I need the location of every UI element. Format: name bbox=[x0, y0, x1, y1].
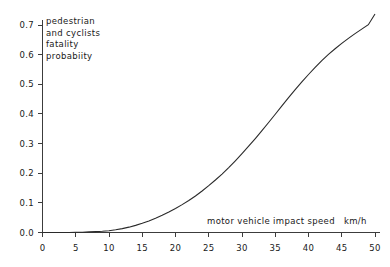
x-tick-label-9: 45 bbox=[336, 243, 347, 253]
y-tick-label-0: 0.0 bbox=[8, 228, 34, 238]
x-axis-ticks bbox=[43, 233, 376, 238]
y-tick-label-4: 0.4 bbox=[8, 109, 34, 119]
chart-figure: 0.00.10.20.30.40.50.60.7 051015202530354… bbox=[0, 0, 390, 267]
y-tick-label-5: 0.5 bbox=[8, 79, 34, 89]
x-axis-title: motor vehicle impact speedkm/h bbox=[207, 216, 367, 226]
y-tick-label-2: 0.2 bbox=[8, 168, 34, 178]
x-tick-label-7: 35 bbox=[270, 243, 281, 253]
x-axis-units: km/h bbox=[344, 216, 367, 226]
y-axis-title-line-4: probabiity bbox=[46, 51, 100, 63]
x-axis-title-text: motor vehicle impact speed bbox=[207, 216, 335, 226]
x-tick-label-10: 50 bbox=[369, 243, 380, 253]
y-tick-label-1: 0.1 bbox=[8, 198, 34, 208]
y-axis-title-line-1: pedestrian bbox=[46, 16, 100, 28]
y-axis-ticks bbox=[38, 25, 43, 233]
y-axis-title: pedestrian and cyclists fatality probabi… bbox=[46, 16, 100, 62]
y-axis-title-line-2: and cyclists bbox=[46, 28, 100, 40]
x-tick-label-6: 30 bbox=[236, 243, 247, 253]
x-tick-label-4: 20 bbox=[170, 243, 181, 253]
x-tick-label-1: 5 bbox=[73, 243, 79, 253]
y-tick-label-6: 0.6 bbox=[8, 50, 34, 60]
x-tick-label-2: 10 bbox=[103, 243, 114, 253]
x-tick-label-8: 40 bbox=[303, 243, 314, 253]
x-tick-label-5: 25 bbox=[203, 243, 214, 253]
x-tick-label-0: 0 bbox=[40, 243, 46, 253]
x-tick-label-3: 15 bbox=[137, 243, 148, 253]
y-tick-label-7: 0.7 bbox=[8, 20, 34, 30]
y-tick-label-3: 0.3 bbox=[8, 139, 34, 149]
y-axis-title-line-3: fatality bbox=[46, 39, 100, 51]
